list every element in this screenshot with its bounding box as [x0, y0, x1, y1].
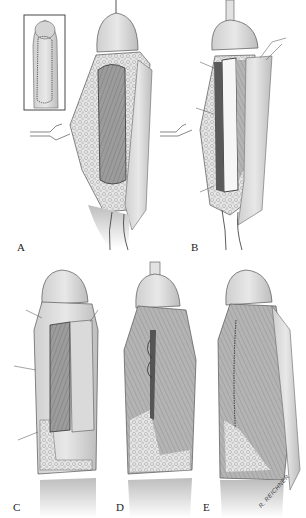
panel-label-a: A	[17, 241, 25, 253]
panel-e-illustration	[218, 270, 300, 518]
panel-b-illustration	[160, 0, 286, 250]
panel-label-c: C	[13, 501, 20, 513]
panel-label-b: B	[191, 241, 198, 253]
surgical-illustration	[0, 0, 306, 518]
panel-c-illustration	[14, 270, 98, 518]
inset-overview	[24, 15, 65, 110]
panel-d-illustration	[124, 262, 196, 518]
panel-label-d: D	[116, 501, 124, 513]
panel-label-e: E	[203, 501, 210, 513]
